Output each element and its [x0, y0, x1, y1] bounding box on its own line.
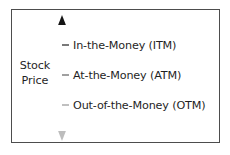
label-at-the-money: At-the-Money (ATM): [73, 69, 181, 82]
label-out-of-the-money: Out-of-the-Money (OTM): [73, 99, 206, 112]
axis-title: Stock Price: [14, 59, 56, 88]
label-in-the-money: In-the-Money (ITM): [73, 39, 176, 52]
axis-title-line-2: Price: [14, 74, 56, 89]
axis-arrowhead-down-icon: [58, 131, 66, 141]
axis-title-line-1: Stock: [14, 59, 56, 74]
option-moneyness-diagram: Stock Price In-the-Money (ITM) At-the-Mo…: [0, 0, 230, 155]
axis-arrowhead-up-icon: [58, 15, 66, 25]
